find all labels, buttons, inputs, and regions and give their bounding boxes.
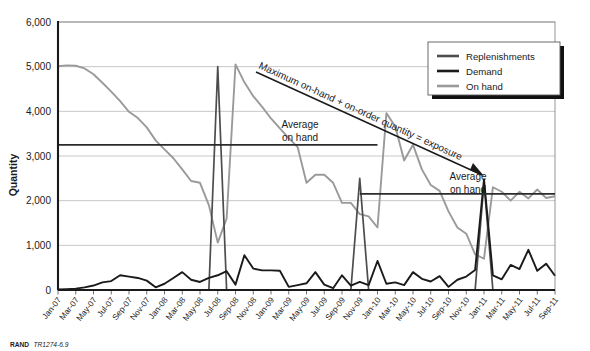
legend-label-on-hand[interactable]: On hand [466,81,503,92]
y-tick-label: 6,000 [26,17,51,28]
y-tick-label: 5,000 [26,61,51,72]
x-tick-label: May-11 [501,295,525,322]
x-tick-label: Nov-08 [235,295,259,322]
inventory-exposure-chart: 01,0002,0003,0004,0005,0006,000 Jan-07Ma… [0,0,590,351]
figure-credit: RAND TR1274-6.9 [10,333,68,351]
y-tick-label: 1,000 [26,240,51,251]
chart-figure: 01,0002,0003,0004,0005,0006,000 Jan-07Ma… [0,0,590,351]
y-tick-label: 2,000 [26,195,51,206]
y-axis-label: Quantity [7,154,19,197]
credit-id: TR1274-6.9 [34,341,69,348]
x-tick-label: Nov-07 [128,295,152,322]
average-on-hand-annotation-1: Average on hand [281,119,319,143]
x-tick-label: Nov-10 [448,295,472,322]
x-axis-ticks: Jan-07Mar-07May-07Jul-07Sep-07Nov-07Jan-… [41,290,561,323]
x-tick-label: Nov-09 [341,295,365,322]
credit-org: RAND [10,341,29,348]
average-on-hand-annotation-2: Average on hand [449,171,487,195]
average-on-hand-label-2-line1: Average [449,171,487,182]
average-on-hand-label-1-line1: Average [281,119,319,130]
legend-label-demand[interactable]: Demand [466,66,502,77]
y-tick-label: 0 [45,285,51,296]
average-on-hand-label-1-line2: on hand [282,132,318,143]
x-tick-label: Sep-11 [537,295,560,321]
y-tick-label: 3,000 [26,151,51,162]
y-tick-label: 4,000 [26,106,51,117]
average-on-hand-label-2-line2: on hand [450,184,486,195]
y-axis-ticks: 01,0002,0003,0004,0005,0006,000 [26,17,51,296]
legend-label-replenishments[interactable]: Replenishments [466,51,535,62]
chart-legend[interactable]: ReplenishmentsDemandOn hand [428,42,564,99]
